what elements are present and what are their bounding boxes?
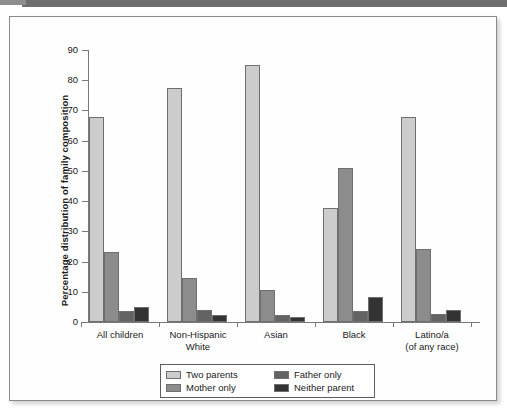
bar bbox=[353, 311, 368, 322]
y-axis-tick-label: 70 bbox=[52, 104, 78, 115]
bar-group bbox=[323, 50, 383, 322]
bar bbox=[104, 252, 119, 322]
bar-group bbox=[245, 50, 305, 322]
x-axis-category-label: Latino/a(of any race) bbox=[377, 329, 487, 353]
y-axis-tick-label: 50 bbox=[52, 165, 78, 176]
y-axis-tick bbox=[82, 50, 88, 51]
bar-group bbox=[401, 50, 461, 322]
y-axis-tick-label: 20 bbox=[52, 256, 78, 267]
y-axis-tick-label: 0 bbox=[52, 316, 78, 327]
y-axis-tick-label: 40 bbox=[52, 195, 78, 206]
category-label-line: White bbox=[143, 341, 253, 353]
legend-item-two-parents: Two parents bbox=[166, 369, 274, 380]
legend-label: Father only bbox=[294, 369, 342, 380]
bar bbox=[134, 307, 149, 322]
x-axis-tick bbox=[471, 322, 472, 327]
y-axis-tick-label: 80 bbox=[52, 74, 78, 85]
bar bbox=[182, 278, 197, 322]
bar bbox=[368, 297, 383, 322]
bar bbox=[323, 208, 338, 322]
x-axis-tick bbox=[159, 322, 160, 327]
legend-swatch-icon bbox=[274, 384, 289, 392]
bar bbox=[197, 310, 212, 322]
scan-artifact-band bbox=[22, 0, 507, 7]
bar bbox=[89, 117, 104, 323]
y-axis-tick-label: 90 bbox=[52, 44, 78, 55]
y-axis-tick bbox=[82, 322, 88, 323]
x-axis-tick bbox=[393, 322, 394, 327]
bar bbox=[167, 88, 182, 322]
y-axis-tick-label: 30 bbox=[52, 225, 78, 236]
bar bbox=[260, 290, 275, 322]
figure-frame: Percentage distribution of family compos… bbox=[9, 16, 497, 401]
bar bbox=[338, 168, 353, 322]
legend-swatch-icon bbox=[166, 384, 181, 392]
scan-artifact-band-left bbox=[0, 0, 26, 5]
y-axis-tick-label: 60 bbox=[52, 135, 78, 146]
legend-item-neither-parent: Neither parent bbox=[274, 382, 354, 393]
bar bbox=[245, 65, 260, 322]
legend-row: Two parents Father only bbox=[166, 368, 369, 381]
category-label-line: Latino/a bbox=[377, 329, 487, 341]
legend-label: Two parents bbox=[186, 369, 238, 380]
bar bbox=[401, 117, 416, 322]
bar bbox=[212, 315, 227, 322]
bar-group bbox=[167, 50, 227, 322]
x-axis-tick bbox=[315, 322, 316, 327]
legend-item-mother-only: Mother only bbox=[166, 382, 274, 393]
y-axis-tick bbox=[82, 141, 88, 142]
y-axis-tick bbox=[82, 292, 88, 293]
y-axis-tick bbox=[82, 201, 88, 202]
bar bbox=[119, 311, 134, 322]
category-label-line: (of any race) bbox=[377, 341, 487, 353]
chart-screenshot: Percentage distribution of family compos… bbox=[0, 0, 507, 413]
y-axis-tick-label: 10 bbox=[52, 286, 78, 297]
y-axis-tick bbox=[82, 110, 88, 111]
plot-area: Percentage distribution of family compos… bbox=[10, 17, 496, 400]
legend-item-father-only: Father only bbox=[274, 369, 342, 380]
x-axis-tick bbox=[81, 322, 82, 327]
bar bbox=[290, 317, 305, 322]
bar bbox=[431, 314, 446, 322]
bar bbox=[275, 315, 290, 322]
x-axis-tick bbox=[237, 322, 238, 327]
legend-swatch-icon bbox=[274, 371, 289, 379]
x-axis-line bbox=[88, 322, 480, 323]
chart-legend: Two parents Father only Mother only Neit… bbox=[160, 364, 375, 398]
legend-label: Mother only bbox=[186, 382, 236, 393]
legend-label: Neither parent bbox=[294, 382, 354, 393]
y-axis-tick bbox=[82, 171, 88, 172]
y-axis-tick bbox=[82, 80, 88, 81]
bar bbox=[416, 249, 431, 322]
legend-row: Mother only Neither parent bbox=[166, 381, 369, 394]
y-axis-tick bbox=[82, 231, 88, 232]
bar-group bbox=[89, 50, 149, 322]
legend-swatch-icon bbox=[166, 371, 181, 379]
bar bbox=[446, 310, 461, 322]
y-axis-tick bbox=[82, 262, 88, 263]
